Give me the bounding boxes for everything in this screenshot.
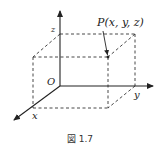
point-p-marker xyxy=(107,56,110,59)
top-left-diagonal xyxy=(33,34,60,57)
x-axis-label: x xyxy=(32,110,38,121)
point-label: P(x, y, z) xyxy=(96,16,144,29)
y-axis-label: y xyxy=(133,89,140,100)
bottom-right-diagonal xyxy=(108,86,135,108)
figure-caption: 図 1.7 xyxy=(67,134,93,144)
z-axis-label: z xyxy=(50,25,56,34)
coordinate-diagram: P(x, y, z) O z y x 図 1.7 xyxy=(0,0,160,153)
top-right-diagonal xyxy=(108,34,135,57)
point-pointer-arrow xyxy=(103,31,108,55)
origin-label: O xyxy=(47,76,55,87)
dashed-box xyxy=(33,34,135,108)
